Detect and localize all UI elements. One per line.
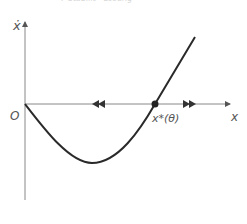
fixed-point-marker (152, 101, 159, 108)
phase-diagram: ẋ x O x*(θ) (0, 0, 247, 224)
phase-curve (25, 37, 195, 163)
x-axis-label: x (230, 110, 239, 124)
origin-label: O (10, 109, 19, 123)
y-axis-label: ẋ (12, 18, 21, 33)
double-arrow-right-icon (183, 100, 196, 108)
fixed-point-label: x*(θ) (151, 112, 179, 125)
double-arrow-left-icon (92, 100, 105, 108)
